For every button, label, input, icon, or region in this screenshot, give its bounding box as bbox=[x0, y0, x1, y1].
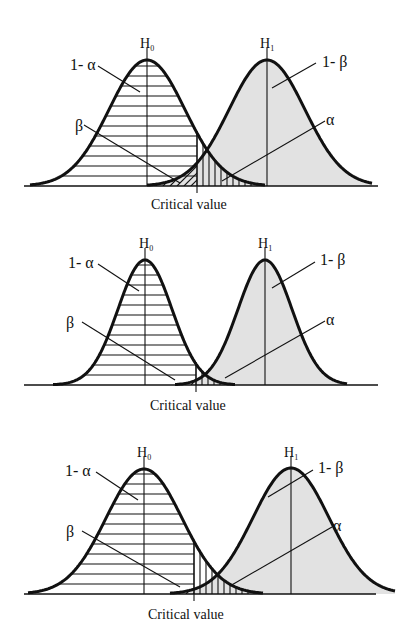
critical-value-label: Critical value bbox=[148, 607, 224, 622]
one-minus-alpha-hatching bbox=[28, 474, 194, 584]
h1-label: H1 bbox=[258, 236, 272, 253]
h0-label: H0 bbox=[140, 36, 154, 53]
h1-shaded-area bbox=[170, 468, 395, 594]
alpha-label: α bbox=[326, 311, 335, 328]
beta-leader-line bbox=[82, 531, 180, 587]
one-minus-alpha-leader-line bbox=[98, 264, 139, 291]
one-minus-alpha-label: 1- α bbox=[65, 462, 91, 479]
beta-leader-line bbox=[84, 125, 180, 183]
h0-label: H0 bbox=[139, 236, 153, 253]
alpha-label: α bbox=[326, 111, 335, 128]
panel-3: H0H11- α1- ββαCritical value bbox=[24, 445, 395, 622]
beta-label: β bbox=[66, 523, 74, 541]
h1-label: H1 bbox=[260, 36, 274, 53]
h0-distribution-curve bbox=[53, 260, 235, 385]
one-minus-alpha-label: 1- α bbox=[68, 254, 94, 271]
panel-1: H0H11- α1- ββαCritical value bbox=[24, 36, 378, 212]
h0-label: H0 bbox=[137, 445, 151, 462]
one-minus-alpha-label: 1- α bbox=[70, 56, 96, 73]
beta-leader-line bbox=[82, 322, 175, 380]
one-minus-beta-label: 1- β bbox=[320, 251, 345, 269]
h1-shaded-area bbox=[175, 260, 347, 385]
beta-label: β bbox=[75, 117, 83, 135]
critical-value-label: Critical value bbox=[150, 398, 226, 413]
panel-2: H0H11- α1- ββαCritical value bbox=[24, 236, 378, 413]
beta-label: β bbox=[66, 314, 74, 332]
alpha-label: α bbox=[333, 517, 342, 534]
hypothesis-test-error-diagram: H0H11- α1- ββαCritical value H0H11- α1- … bbox=[0, 0, 420, 636]
one-minus-beta-label: 1- β bbox=[318, 459, 343, 477]
h1-label: H1 bbox=[284, 445, 298, 462]
one-minus-beta-label: 1- β bbox=[322, 53, 347, 71]
critical-value-label: Critical value bbox=[151, 197, 227, 212]
h1-shaded-area bbox=[147, 60, 372, 186]
